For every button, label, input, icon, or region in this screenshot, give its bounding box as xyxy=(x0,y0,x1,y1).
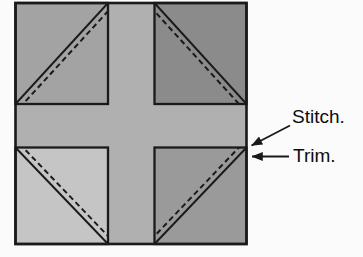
page: Stitch. Trim. xyxy=(0,0,363,257)
trim-label: Trim. xyxy=(293,145,336,166)
quilt-block-diagram: Stitch. Trim. xyxy=(0,0,363,257)
stitch-label: Stitch. xyxy=(292,106,345,127)
